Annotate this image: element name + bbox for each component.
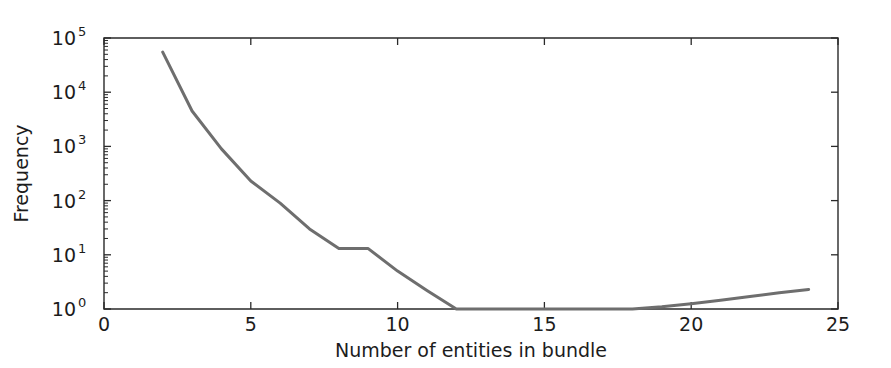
y-tick-label-1e4: 10 4 [52, 78, 86, 103]
x-tick-label-5: 5 [245, 313, 257, 335]
frequency-log-line-chart: 0 5 10 15 20 25 10 0 10 1 10 2 10 3 10 4… [0, 0, 891, 368]
y-tick-exp-0: 0 [78, 295, 86, 310]
y-tick-base-1: 10 [52, 244, 76, 266]
y-tick-label-1e2: 10 2 [52, 187, 86, 212]
y-tick-base-5: 10 [52, 27, 76, 49]
y-tick-label-1e0: 10 0 [52, 295, 86, 320]
plot-background [104, 38, 838, 309]
y-tick-label-1e3: 10 3 [52, 132, 86, 157]
y-axis-title: Frequency [10, 124, 32, 222]
chart-figure: 0 5 10 15 20 25 10 0 10 1 10 2 10 3 10 4… [0, 0, 891, 368]
y-tick-exp-3: 3 [78, 132, 86, 147]
x-axis-title: Number of entities in bundle [335, 339, 607, 361]
y-tick-label-1e5: 10 5 [52, 24, 86, 49]
x-tick-label-20: 20 [679, 313, 703, 335]
y-tick-base-2: 10 [52, 190, 76, 212]
y-tick-base-4: 10 [52, 81, 76, 103]
x-tick-label-15: 15 [532, 313, 556, 335]
y-tick-base-3: 10 [52, 135, 76, 157]
y-tick-exp-1: 1 [78, 241, 86, 256]
x-tick-label-10: 10 [386, 313, 410, 335]
y-tick-label-1e1: 10 1 [52, 241, 86, 266]
x-tick-label-0: 0 [98, 313, 110, 335]
y-tick-base-0: 10 [52, 298, 76, 320]
x-tick-label-25: 25 [826, 313, 850, 335]
y-tick-exp-4: 4 [78, 78, 86, 93]
y-tick-exp-5: 5 [78, 24, 86, 39]
y-tick-exp-2: 2 [78, 187, 86, 202]
